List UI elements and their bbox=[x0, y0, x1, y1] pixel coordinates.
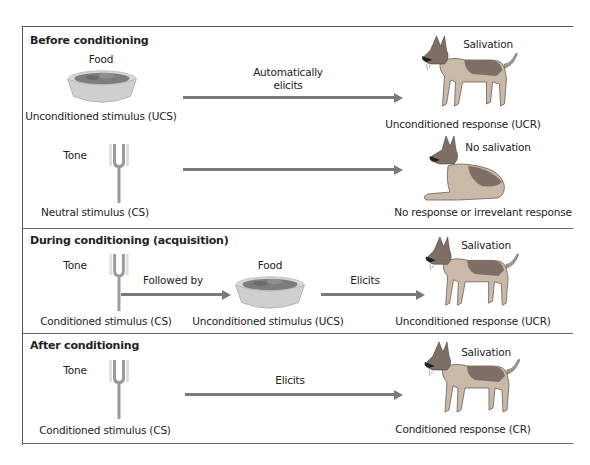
section-after-conditioning: After conditioning Tone Conditioned stim… bbox=[23, 334, 573, 444]
arrow-label: Followed by bbox=[143, 274, 203, 286]
arrow-icon bbox=[183, 168, 395, 171]
section-divider bbox=[22, 443, 573, 444]
stimulus-caption: Tone bbox=[63, 364, 86, 376]
food-bowl-icon bbox=[231, 274, 309, 312]
arrow-label: Automatically bbox=[253, 66, 323, 78]
response-caption: Salivation bbox=[461, 346, 511, 358]
arrow-icon bbox=[185, 393, 395, 396]
stimulus-caption: Tone bbox=[63, 149, 86, 161]
stimulus-label: Unconditioned stimulus (UCS) bbox=[192, 315, 343, 327]
tuning-fork-icon bbox=[109, 254, 129, 312]
arrow-label: elicits bbox=[273, 79, 302, 91]
tuning-fork-icon bbox=[109, 360, 129, 420]
stimulus-label: Conditioned stimulus (CS) bbox=[39, 424, 171, 436]
section-title: Before conditioning bbox=[30, 34, 149, 47]
response-label: Unconditioned response (UCR) bbox=[385, 118, 540, 130]
arrow-icon bbox=[121, 293, 223, 296]
response-label: No response or irrevelant response bbox=[394, 206, 571, 218]
stimulus-caption: Tone bbox=[63, 259, 86, 271]
arrow-icon bbox=[321, 293, 417, 296]
response-label: Conditioned response (CR) bbox=[395, 423, 530, 435]
arrow-icon bbox=[183, 96, 395, 99]
response-caption: No salivation bbox=[465, 141, 531, 153]
response-label: Unconditioned response (UCR) bbox=[395, 315, 550, 327]
response-caption: Salivation bbox=[461, 239, 511, 251]
stimulus-caption: Food bbox=[89, 53, 113, 65]
section-title: After conditioning bbox=[30, 339, 139, 352]
section-during-conditioning: During conditioning (acquisition) Tone C… bbox=[23, 229, 573, 329]
food-bowl-icon bbox=[63, 68, 141, 106]
stimulus-label: Conditioned stimulus (CS) bbox=[40, 315, 172, 327]
arrow-label: Elicits bbox=[275, 374, 304, 386]
stimulus-caption: Food bbox=[258, 259, 282, 271]
response-caption: Salivation bbox=[463, 38, 513, 50]
stimulus-label: Unconditioned stimulus (UCS) bbox=[25, 110, 176, 122]
section-title: During conditioning (acquisition) bbox=[30, 234, 229, 247]
stimulus-label: Neutral stimulus (CS) bbox=[41, 206, 149, 218]
tuning-fork-icon bbox=[109, 144, 129, 204]
section-before-conditioning: Before conditioning Food Unconditioned s… bbox=[23, 26, 573, 221]
arrow-label: Elicits bbox=[350, 274, 379, 286]
